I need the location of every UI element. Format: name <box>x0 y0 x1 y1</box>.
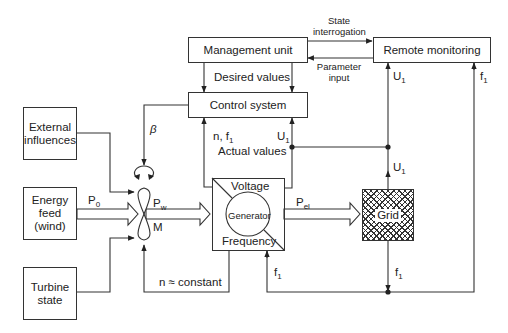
management-unit-block: Management unit <box>188 37 308 63</box>
f1-grid-label: f1 <box>395 266 403 283</box>
parameter-input-label: Parameter input <box>316 61 362 83</box>
turbine-state-block: Turbine state <box>23 267 77 320</box>
grid-block: Grid <box>362 189 414 241</box>
desired-values-label: Desired values <box>214 71 290 84</box>
turbine-state-label: Turbine state <box>28 281 72 307</box>
p0-label: P0 <box>88 194 100 211</box>
generator-voltage-label: Voltage <box>231 180 269 193</box>
generator-frequency-label: Frequency <box>222 235 276 248</box>
external-influences-label: External influences <box>24 121 76 147</box>
u1-remote-label: U1 <box>393 70 406 87</box>
control-system-block: Control system <box>188 92 308 118</box>
management-unit-label: Management unit <box>204 44 293 57</box>
grid-label: Grid <box>375 209 401 222</box>
u1-control-label: U1 <box>277 130 290 147</box>
remote-monitoring-block: Remote monitoring <box>373 37 491 63</box>
pw-label: Pw <box>153 197 166 214</box>
energy-feed-label: Energy feed (wind) <box>28 194 72 233</box>
external-influences-block: External influences <box>23 107 77 160</box>
remote-monitoring-label: Remote monitoring <box>383 44 480 57</box>
state-interrogation-label: State interrogation <box>313 15 365 37</box>
n-f1-label: n, f1 <box>213 130 233 147</box>
f1-generator-label: f1 <box>274 266 282 283</box>
m-label: M <box>153 221 163 234</box>
energy-feed-block: Energy feed (wind) <box>23 187 77 240</box>
beta-label: β <box>150 123 157 136</box>
control-system-label: Control system <box>210 99 287 112</box>
pel-label: Pel <box>296 196 310 213</box>
f1-remote-label: f1 <box>480 70 488 87</box>
n-constant-label: n ≈ constant <box>159 276 222 289</box>
u1-grid-label: U1 <box>393 161 406 178</box>
generator-label: Generator <box>228 209 271 222</box>
